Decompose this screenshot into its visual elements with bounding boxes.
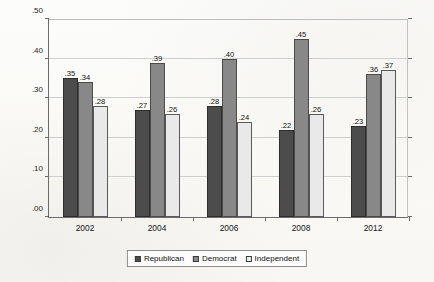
x-tick-mark bbox=[193, 217, 194, 221]
bar-value-label: .28 bbox=[209, 97, 220, 106]
bar-value-label: .36 bbox=[368, 65, 379, 74]
bar-republican-2004[interactable]: .27 bbox=[135, 110, 150, 217]
legend-swatch-icon bbox=[193, 256, 199, 262]
plot-area: .00.10.20.30.40.50 .35.34.28.27.39.26.28… bbox=[48, 19, 408, 218]
y-tick-label: .50 bbox=[32, 6, 43, 15]
y-tick-label: .10 bbox=[32, 164, 43, 173]
bar-value-label: .24 bbox=[239, 113, 250, 122]
bar-value-label: .37 bbox=[383, 61, 394, 70]
bar-value-label: .35 bbox=[65, 69, 76, 78]
bar-group-2002: .35.34.28 bbox=[49, 19, 121, 217]
bar-independent-2002[interactable]: .28 bbox=[93, 106, 108, 217]
bar-group-2008: .22.45.26 bbox=[265, 19, 337, 217]
legend-item-republican[interactable]: Republican bbox=[135, 254, 184, 263]
bar-value-label: .26 bbox=[311, 105, 322, 114]
bar-independent-2012[interactable]: .37 bbox=[381, 70, 396, 217]
bar-independent-2004[interactable]: .26 bbox=[165, 114, 180, 217]
y-tick-label: .00 bbox=[32, 204, 43, 213]
legend-item-independent[interactable]: Independent bbox=[246, 254, 300, 263]
bar-value-label: .27 bbox=[137, 101, 148, 110]
y-tick-label: .40 bbox=[32, 45, 43, 54]
bar-value-label: .39 bbox=[152, 54, 163, 63]
legend-item-democrat[interactable]: Democrat bbox=[193, 254, 237, 263]
x-tick-label-2004: 2004 bbox=[148, 223, 167, 233]
bar-independent-2006[interactable]: .24 bbox=[237, 122, 252, 217]
legend-label: Independent bbox=[255, 254, 300, 263]
legend-swatch-icon bbox=[135, 256, 141, 262]
bar-democrat-2006[interactable]: .40 bbox=[222, 59, 237, 217]
y-tick-label: .20 bbox=[32, 124, 43, 133]
bar-value-label: .40 bbox=[224, 50, 235, 59]
legend-label: Democrat bbox=[202, 254, 237, 263]
bar-group-2004: .27.39.26 bbox=[121, 19, 193, 217]
x-tick-mark bbox=[409, 217, 410, 221]
bar-value-label: .22 bbox=[281, 121, 292, 130]
bar-democrat-2002[interactable]: .34 bbox=[78, 82, 93, 217]
chart-legend: RepublicanDemocratIndependent bbox=[127, 250, 307, 267]
x-tick-label-2002: 2002 bbox=[76, 223, 95, 233]
bar-republican-2008[interactable]: .22 bbox=[279, 130, 294, 217]
bar-value-label: .28 bbox=[95, 97, 106, 106]
bar-democrat-2008[interactable]: .45 bbox=[294, 39, 309, 217]
x-tick-label-2008: 2008 bbox=[292, 223, 311, 233]
x-tick-mark bbox=[121, 217, 122, 221]
bar-value-label: .23 bbox=[353, 117, 364, 126]
legend-swatch-icon bbox=[246, 256, 252, 262]
bar-republican-2002[interactable]: .35 bbox=[63, 78, 78, 217]
bar-democrat-2012[interactable]: .36 bbox=[366, 74, 381, 217]
x-tick-mark bbox=[337, 217, 338, 221]
bar-group-2006: .28.40.24 bbox=[193, 19, 265, 217]
bar-independent-2008[interactable]: .26 bbox=[309, 114, 324, 217]
bar-republican-2006[interactable]: .28 bbox=[207, 106, 222, 217]
legend-label: Republican bbox=[144, 254, 184, 263]
x-tick-label-2012: 2012 bbox=[364, 223, 383, 233]
x-tick-label-2006: 2006 bbox=[220, 223, 239, 233]
bar-value-label: .34 bbox=[80, 73, 91, 82]
bar-value-label: .45 bbox=[296, 30, 307, 39]
bar-value-label: .26 bbox=[167, 105, 178, 114]
bar-chart: Percent watching "regularly" .00.10.20.3… bbox=[0, 0, 434, 282]
bar-group-2012: .23.36.37 bbox=[337, 19, 409, 217]
bar-republican-2012[interactable]: .23 bbox=[351, 126, 366, 217]
bar-democrat-2004[interactable]: .39 bbox=[150, 63, 165, 217]
y-tick-label: .30 bbox=[32, 85, 43, 94]
x-tick-mark bbox=[265, 217, 266, 221]
